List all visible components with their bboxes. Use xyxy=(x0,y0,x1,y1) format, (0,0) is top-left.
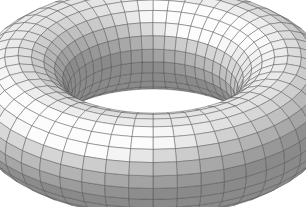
torus-quad xyxy=(118,37,131,52)
torus-quad xyxy=(109,135,132,149)
torus-quad xyxy=(153,62,164,73)
torus-quad xyxy=(140,23,153,37)
torus-quad xyxy=(274,56,288,65)
torus-quad xyxy=(185,52,196,67)
torus-quad xyxy=(107,147,131,162)
torus-quad xyxy=(153,119,172,127)
torus-figure: Shaded wireframe torus xyxy=(0,0,306,207)
torus-quad xyxy=(174,135,197,149)
torus-quad xyxy=(131,50,142,64)
torus-quad xyxy=(134,119,153,127)
torus-quad xyxy=(130,36,142,50)
torus-quad xyxy=(142,49,153,62)
torus-quad xyxy=(177,173,201,188)
torus-quad xyxy=(153,126,174,137)
torus-quad xyxy=(175,63,186,76)
torus-quad xyxy=(176,160,200,175)
torus-quad xyxy=(139,10,153,23)
torus-quad xyxy=(140,81,153,87)
torus-quad xyxy=(105,173,129,188)
torus-quad xyxy=(153,162,177,176)
torus-quad xyxy=(18,56,32,65)
torus-quad xyxy=(153,114,171,119)
torus-quad xyxy=(142,62,153,73)
torus-quad xyxy=(175,51,186,65)
torus-quad xyxy=(153,137,175,150)
torus-quad xyxy=(164,62,175,74)
torus-quad xyxy=(175,147,199,162)
torus-quad xyxy=(129,188,153,200)
torus-quad xyxy=(153,149,176,163)
torus-quad xyxy=(131,62,142,74)
torus-quad xyxy=(153,81,166,87)
torus-quad xyxy=(137,0,153,11)
torus-quad xyxy=(153,36,165,50)
torus-quad xyxy=(153,73,165,82)
torus-quad xyxy=(175,37,188,52)
torus-quad xyxy=(129,162,153,176)
torus-quad xyxy=(164,36,176,50)
torus-quad xyxy=(153,10,167,23)
torus-quad xyxy=(153,23,166,37)
torus-quad xyxy=(153,188,177,200)
figure-container: Shaded wireframe torus xyxy=(0,0,306,207)
torus-quad xyxy=(164,73,176,83)
torus-quad xyxy=(165,23,179,37)
torus-quad xyxy=(120,51,131,65)
torus-quad xyxy=(153,175,177,188)
torus-quad xyxy=(129,199,153,207)
torus-quad xyxy=(153,199,177,207)
torus-quad xyxy=(129,175,153,188)
torus-quad xyxy=(130,73,142,83)
torus-quad xyxy=(135,114,153,119)
torus-quad xyxy=(130,149,153,163)
torus-quad xyxy=(132,126,153,137)
torus-quad xyxy=(153,49,164,62)
torus-quad xyxy=(164,50,175,64)
torus-quad xyxy=(105,160,129,175)
torus-quad xyxy=(153,0,169,11)
torus-quad xyxy=(131,137,153,150)
torus-quad xyxy=(141,73,153,82)
torus-quad xyxy=(120,63,131,76)
torus-quad xyxy=(127,23,141,37)
torus-quad xyxy=(110,52,121,67)
torus-quad xyxy=(141,36,153,50)
